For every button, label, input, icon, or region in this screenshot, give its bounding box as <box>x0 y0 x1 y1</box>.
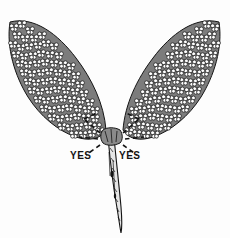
label-yes-right: YES <box>119 150 141 161</box>
figure-illustration <box>0 0 230 238</box>
label-yes-left: YES <box>70 150 92 161</box>
right-leaflet-cluster <box>123 21 220 139</box>
botanical-pruning-figure: YES YES <box>0 0 230 238</box>
left-leaflet-cluster <box>9 21 106 139</box>
leaf-junction-node <box>101 128 123 146</box>
